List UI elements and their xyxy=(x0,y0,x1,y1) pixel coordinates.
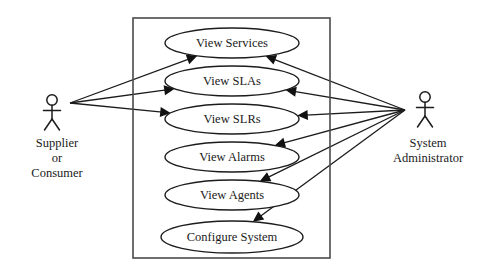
use-case-view-alarms[interactable]: View Alarms xyxy=(165,142,299,172)
association-line xyxy=(70,90,166,103)
actor-head-icon xyxy=(47,95,57,105)
use-case-label: View Alarms xyxy=(199,150,265,164)
actor-system-administrator[interactable]: SystemAdministrator xyxy=(393,92,464,165)
association-line xyxy=(70,103,162,112)
diagram-canvas: View ServicesView SLAsView SLRsView Alar… xyxy=(0,0,483,272)
association-arrowhead-icon xyxy=(253,211,264,221)
use-case-configure-system[interactable]: Configure System xyxy=(161,221,303,253)
actor-leg-l-icon xyxy=(418,116,426,127)
use-case-view-slas[interactable]: View SLAs xyxy=(165,66,299,96)
actor-supplier-or-consumer[interactable]: SupplierorConsumer xyxy=(31,95,83,180)
use-case-view-services[interactable]: View Services xyxy=(165,28,299,58)
actor-label-line: Supplier xyxy=(36,136,79,150)
association-supplier-or-consumer-to-view-slas xyxy=(70,85,175,103)
use-case-label: View Services xyxy=(196,36,268,50)
actor-label-line: Consumer xyxy=(31,166,83,180)
actor-label-line: Administrator xyxy=(393,151,464,165)
use-case-label: View SLAs xyxy=(203,74,261,88)
association-supplier-or-consumer-to-view-slrs xyxy=(70,103,171,117)
use-case-label: View SLRs xyxy=(203,112,260,126)
use-case-view-agents[interactable]: View Agents xyxy=(165,180,299,210)
use-case-label: View Agents xyxy=(200,188,264,202)
actor-label-line: System xyxy=(410,136,447,150)
association-system-administrator-to-view-slas xyxy=(286,87,405,110)
actor-leg-r-icon xyxy=(425,116,433,127)
use-case-view-slrs[interactable]: View SLRs xyxy=(165,104,299,134)
association-line xyxy=(294,91,405,110)
use-case-diagram: View ServicesView SLAsView SLRsView Alar… xyxy=(0,0,483,272)
actor-label-line: or xyxy=(52,151,63,165)
use-case-label: Configure System xyxy=(187,230,278,244)
actor-leg-r-icon xyxy=(52,119,60,130)
actor-head-icon xyxy=(420,92,430,102)
actor-leg-l-icon xyxy=(45,119,53,130)
